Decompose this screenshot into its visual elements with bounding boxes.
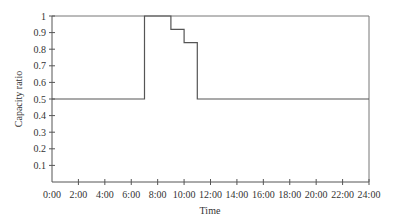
x-tick-label: 8:00	[149, 189, 167, 200]
y-tick-label: 1	[41, 11, 46, 22]
series-capacity-ratio	[52, 16, 369, 99]
x-tick-label: 20:00	[305, 189, 328, 200]
y-tick-label: 0.9	[34, 27, 47, 38]
step-line	[52, 16, 369, 99]
x-tick-label: 0:00	[43, 189, 61, 200]
y-tick-label: 0.4	[34, 110, 47, 121]
y-axis-title: Capacity ratio	[13, 71, 24, 127]
y-tick-label: 0.7	[34, 60, 47, 71]
x-tick-label: 14:00	[226, 189, 249, 200]
x-tick-label: 2:00	[70, 189, 88, 200]
y-tick-label: 0.6	[34, 77, 47, 88]
y-tick-label: 0.5	[34, 94, 47, 105]
x-tick-label: 22:00	[331, 189, 354, 200]
y-tick-label: 0.3	[34, 127, 47, 138]
x-tick-label: 4:00	[96, 189, 114, 200]
x-tick-label: 6:00	[122, 189, 140, 200]
x-axis-title: Time	[200, 205, 221, 216]
x-tick-label: 16:00	[252, 189, 275, 200]
x-tick-label: 10:00	[173, 189, 196, 200]
x-tick-label: 12:00	[199, 189, 222, 200]
y-tick-label: 0.1	[34, 160, 47, 171]
y-tick-label: 0.2	[34, 143, 47, 154]
x-tick-label: 18:00	[278, 189, 301, 200]
x-tick-label: 24:00	[358, 189, 381, 200]
chart: 0.10.20.30.40.50.60.70.80.91 0:002:004:0…	[0, 0, 393, 223]
y-tick-label: 0.8	[34, 44, 47, 55]
